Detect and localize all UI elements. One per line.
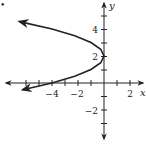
y-tick-label: 2 xyxy=(92,52,98,62)
y-tick-label: 4 xyxy=(92,25,98,35)
x-tick-label: −2 xyxy=(70,89,83,99)
y-tick-label: −2 xyxy=(85,106,98,116)
x-axis-label: x xyxy=(140,87,146,98)
x-tick-label: −4 xyxy=(45,89,59,99)
parabola-graph: −4 −2 2 4 2 −2 x y • xyxy=(0,0,147,145)
y-axis-label: y xyxy=(108,0,115,11)
bullet: • xyxy=(0,0,5,10)
x-tick-label: 2 xyxy=(127,89,133,99)
